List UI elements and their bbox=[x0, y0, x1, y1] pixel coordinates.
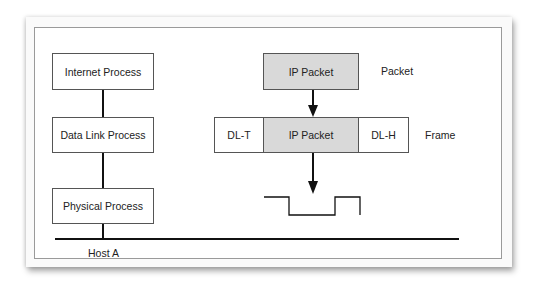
arrow-down-icon bbox=[308, 105, 318, 117]
physical-process-label: Physical Process bbox=[63, 200, 143, 212]
arrow-down-icon bbox=[308, 181, 318, 194]
ip-packet-box: IP Packet bbox=[263, 53, 359, 90]
dl-trailer-label: DL-T bbox=[227, 129, 250, 141]
data-link-process-label: Data Link Process bbox=[60, 129, 145, 141]
internet-process-box: Internet Process bbox=[52, 53, 154, 90]
square-wave-signal bbox=[264, 197, 360, 215]
internet-process-label: Internet Process bbox=[65, 66, 141, 78]
frame-ip-packet-box: IP Packet bbox=[263, 117, 359, 153]
dl-trailer-box: DL-T bbox=[214, 117, 264, 153]
ip-packet-label: IP Packet bbox=[289, 66, 334, 78]
dl-header-box: DL-H bbox=[358, 117, 409, 153]
dl-header-label: DL-H bbox=[371, 129, 396, 141]
host-a-label: Host A bbox=[88, 247, 119, 259]
data-link-process-box: Data Link Process bbox=[52, 117, 154, 153]
physical-process-box: Physical Process bbox=[52, 188, 154, 224]
packet-caption: Packet bbox=[381, 65, 413, 77]
frame-ip-packet-label: IP Packet bbox=[289, 129, 334, 141]
frame-caption: Frame bbox=[425, 129, 455, 141]
